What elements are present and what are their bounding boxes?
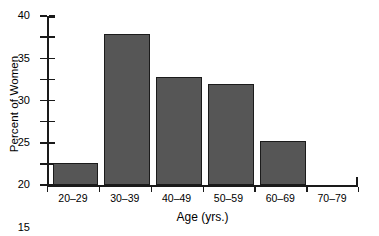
x-tick — [254, 187, 255, 192]
bar-30–39 — [104, 34, 150, 185]
y-tick-label: 20 — [18, 178, 30, 190]
y-tick-30: 30 — [40, 58, 47, 60]
bar-50–59 — [208, 84, 254, 185]
y-tick-label: 15 — [18, 221, 30, 233]
y-tick-label: 25 — [18, 136, 30, 148]
y-tick-inner-10 — [49, 142, 55, 144]
bar-60–69 — [260, 141, 306, 185]
y-tick-40: 40 — [40, 15, 47, 17]
y-tick-inner-40 — [49, 15, 55, 17]
x-axis-end-cap — [356, 177, 358, 186]
bar-40–49 — [156, 77, 202, 185]
x-category-label: 70–79 — [317, 192, 346, 204]
y-tick-15: 15 — [40, 121, 47, 123]
y-tick-35: 35 — [40, 36, 47, 38]
y-tick-5: 5 — [40, 163, 47, 165]
x-category-label: 30–39 — [110, 192, 139, 204]
bar-chart: Percent of Women 0510152025303540 20–293… — [0, 0, 379, 236]
x-tick — [47, 187, 48, 192]
y-tick-inner-20 — [49, 100, 55, 102]
plot-area: 0510152025303540 20–2930–3940–4950–5960–… — [47, 16, 358, 185]
x-category-label: 20–29 — [58, 192, 87, 204]
x-category-label: 60–69 — [266, 192, 295, 204]
x-tick — [306, 187, 307, 192]
y-tick-inner-35 — [49, 36, 55, 38]
x-axis-title: Age (yrs.) — [47, 210, 358, 224]
x-category-label: 50–59 — [214, 192, 243, 204]
y-tick-label: 35 — [18, 52, 30, 64]
y-tick-inner-15 — [49, 121, 55, 123]
y-tick-inner-25 — [49, 79, 55, 81]
chart-figure: Percent of Women 0510152025303540 20–293… — [0, 0, 379, 236]
x-tick-end — [358, 187, 359, 192]
x-tick — [151, 187, 152, 192]
x-category-label: 40–49 — [162, 192, 191, 204]
y-tick-label: 40 — [18, 9, 30, 21]
y-tick-25: 25 — [40, 79, 47, 81]
y-tick-inner-30 — [49, 58, 55, 60]
y-tick-10: 10 — [40, 142, 47, 144]
bar-20–29 — [53, 163, 99, 185]
x-tick — [203, 187, 204, 192]
y-tick-0: 0 — [40, 184, 47, 186]
x-tick — [99, 187, 100, 192]
y-tick-20: 20 — [40, 100, 47, 102]
y-tick-label: 30 — [18, 94, 30, 106]
